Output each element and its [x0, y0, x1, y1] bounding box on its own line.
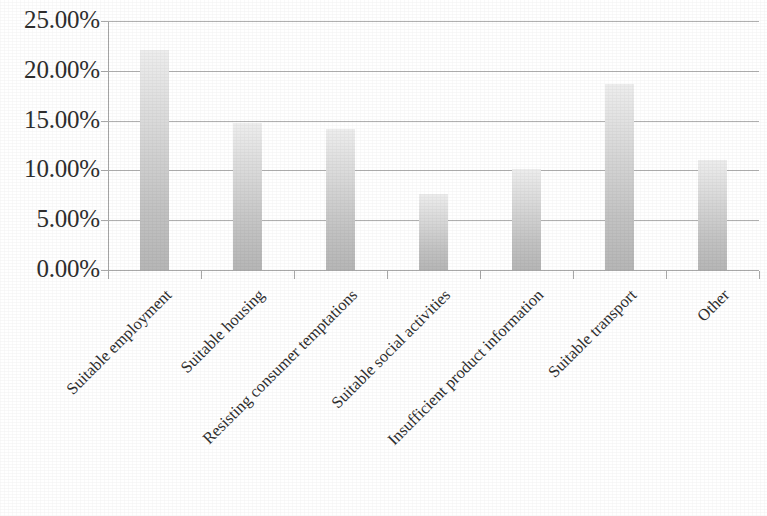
bar [605, 84, 634, 270]
y-axis-tick-label: 20.00% [0, 57, 100, 82]
y-axis-tick-label: 15.00% [0, 107, 100, 132]
x-axis-category-labels: Suitable employmentSuitable housingResis… [0, 276, 767, 516]
bar-chart: 25.00%20.00%15.00%10.00%5.00%0.00% Suita… [0, 0, 767, 516]
bar [419, 194, 448, 270]
bar [698, 160, 727, 270]
gridline [108, 21, 759, 22]
x-axis-category-label: Suitable housing [75, 286, 268, 479]
bar [326, 129, 355, 270]
bar [140, 50, 169, 270]
y-axis-labels: 25.00%20.00%15.00%10.00%5.00%0.00% [0, 0, 100, 290]
gridline [108, 170, 759, 171]
gridline [108, 71, 759, 72]
bar [512, 169, 541, 270]
bar [233, 123, 262, 270]
gridline [108, 121, 759, 122]
y-axis-tick-label: 5.00% [0, 206, 100, 231]
y-axis-tick-label: 10.00% [0, 156, 100, 181]
plot-area [108, 21, 759, 270]
y-axis-tick-label: 25.00% [0, 7, 100, 32]
x-axis-category-label: Other [211, 286, 733, 516]
